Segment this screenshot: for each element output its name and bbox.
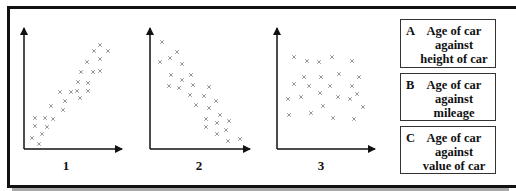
cross-marker-icon [189, 73, 193, 77]
cross-marker-icon [180, 78, 184, 82]
cross-marker-icon [169, 73, 173, 77]
cross-marker-icon [98, 43, 102, 47]
option-letter: C [406, 131, 415, 145]
cross-marker-icon [45, 125, 49, 129]
cross-marker-icon [188, 93, 192, 97]
option-line: Age of car [427, 24, 482, 38]
cross-marker-icon [91, 70, 95, 74]
cross-marker-icon [85, 60, 89, 64]
cross-marker-icon [202, 94, 206, 98]
cross-marker-icon [352, 117, 356, 121]
cross-marker-icon [177, 86, 181, 90]
graph-label-3: 3 [311, 158, 331, 174]
option-line: against [435, 92, 473, 106]
cross-marker-icon [92, 49, 96, 53]
cross-marker-icon [302, 75, 306, 79]
cross-marker-icon [86, 81, 90, 85]
option-line: Age of car [427, 131, 482, 145]
cross-marker-icon [86, 89, 90, 93]
cross-marker-icon [337, 72, 341, 76]
cross-marker-icon [227, 119, 231, 123]
cross-marker-icon [218, 113, 222, 117]
cross-marker-icon [319, 75, 323, 79]
cross-marker-icon [58, 90, 62, 94]
cross-marker-icon [350, 59, 354, 63]
option-line: height of car [420, 52, 487, 66]
cross-marker-icon [317, 60, 321, 64]
cross-marker-icon [307, 84, 311, 88]
option-line: value of car [423, 159, 485, 173]
cross-marker-icon [79, 70, 83, 74]
cross-marker-icon [106, 49, 110, 53]
cross-marker-icon [224, 128, 228, 132]
cross-marker-icon [355, 92, 359, 96]
cross-marker-icon [51, 117, 55, 121]
option-box-c: C Age of car against value of car [400, 126, 496, 174]
cross-marker-icon [328, 84, 332, 88]
cross-marker-icon [33, 124, 37, 128]
cross-marker-icon [207, 106, 211, 110]
option-box-b: B Age of car against mileage [400, 73, 496, 121]
cross-marker-icon [168, 56, 172, 60]
cross-marker-icon [292, 82, 296, 86]
option-text: Age of car against height of car [401, 20, 495, 70]
cross-marker-icon [207, 85, 211, 89]
cross-marker-icon [75, 89, 79, 93]
cross-marker-icon [238, 137, 242, 141]
cross-marker-icon [336, 95, 340, 99]
graph-label-2: 2 [189, 158, 209, 174]
option-box-a: A Age of car against height of car [400, 19, 496, 68]
option-letter: A [406, 24, 415, 38]
cross-marker-icon [350, 84, 354, 88]
cross-marker-icon [204, 125, 208, 129]
cross-marker-icon [30, 136, 34, 140]
cross-marker-icon [78, 96, 82, 100]
option-text: Age of car against mileage [401, 74, 495, 124]
cross-marker-icon [43, 116, 47, 120]
cross-marker-icon [348, 97, 352, 101]
option-line: against [435, 145, 473, 159]
cross-marker-icon [37, 142, 41, 146]
cross-marker-icon [292, 55, 296, 59]
cross-marker-icon [158, 60, 162, 64]
cross-marker-icon [204, 117, 208, 121]
cross-marker-icon [215, 132, 219, 136]
cross-marker-icon [175, 50, 179, 54]
cross-marker-icon [69, 90, 73, 94]
cross-marker-icon [180, 62, 184, 66]
cross-marker-icon [318, 91, 322, 95]
cross-marker-icon [63, 99, 67, 103]
cross-marker-icon [226, 139, 230, 143]
option-line: Age of car [427, 78, 482, 92]
cross-marker-icon [215, 121, 219, 125]
cross-marker-icon [61, 108, 65, 112]
cross-marker-icon [309, 111, 313, 115]
cross-marker-icon [167, 84, 171, 88]
option-letter: B [406, 78, 414, 92]
cross-marker-icon [361, 105, 365, 109]
scatter-graph-3 [277, 28, 375, 149]
cross-marker-icon [357, 75, 361, 79]
cross-marker-icon [287, 113, 291, 117]
cross-marker-icon [40, 132, 44, 136]
cross-marker-icon [76, 80, 80, 84]
cross-marker-icon [330, 55, 334, 59]
cross-marker-icon [299, 95, 303, 99]
option-line: mileage [434, 106, 475, 120]
cross-marker-icon [49, 104, 53, 108]
option-text: Age of car against value of car [401, 127, 495, 177]
option-line: against [435, 38, 473, 52]
cross-marker-icon [305, 59, 309, 63]
scatter-graph-1 [24, 28, 122, 149]
graph-label-1: 1 [56, 158, 76, 174]
cross-marker-icon [98, 57, 102, 61]
cross-marker-icon [286, 97, 290, 101]
scatter-graph-2 [150, 28, 250, 149]
cross-marker-icon [321, 104, 325, 108]
cross-marker-icon [191, 83, 195, 87]
cross-marker-icon [33, 116, 37, 120]
cross-marker-icon [194, 103, 198, 107]
cross-marker-icon [98, 69, 102, 73]
cross-marker-icon [160, 40, 164, 44]
cross-marker-icon [214, 99, 218, 103]
